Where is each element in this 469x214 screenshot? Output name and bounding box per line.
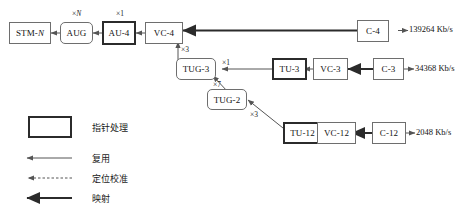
node-vc-3[interactable]: VC-3 <box>313 58 348 80</box>
rate-c-3: 34368 Kb/s <box>415 63 454 73</box>
node-aug[interactable]: AUG <box>60 22 93 44</box>
node-c-12[interactable]: C-12 <box>372 122 406 144</box>
node-au-4[interactable]: AU-4 <box>102 21 136 45</box>
multiplier-au-4: ×1 <box>116 9 124 18</box>
node-vc-4[interactable]: VC-4 <box>145 22 183 44</box>
legend-label-map: 映射 <box>92 192 110 205</box>
multiplier-aug: ×N <box>72 9 81 18</box>
diagram-canvas: STM-N AUG AU-4 VC-4 C-4 TUG-3 TU-3 VC-3 … <box>0 0 469 214</box>
node-tug-2[interactable]: TUG-2 <box>207 89 247 110</box>
legend-label-mux: 复用 <box>92 152 110 165</box>
multiplier-tu-12: ×3 <box>250 110 258 119</box>
node-label-stm-n: STM-N <box>16 28 44 38</box>
node-vc-12[interactable]: VC-12 <box>317 122 356 144</box>
node-c-4[interactable]: C-4 <box>357 20 389 42</box>
legend-label-pointer: 指针处理 <box>92 121 128 134</box>
node-tug-3[interactable]: TUG-3 <box>176 58 216 80</box>
node-tu-3[interactable]: TU-3 <box>272 58 307 80</box>
multiplier-tug-2: ×7 <box>213 80 221 89</box>
legend-label-align: 定位校准 <box>92 172 128 185</box>
multiplier-tu-3: ×1 <box>222 58 230 67</box>
multiplier-tug-3: ×3 <box>181 45 189 54</box>
legend-symbol-pointer-box <box>28 116 72 138</box>
rate-c-12: 2048 Kb/s <box>416 127 451 137</box>
node-c-3[interactable]: C-3 <box>373 58 404 80</box>
node-stm-n[interactable]: STM-N <box>9 22 51 44</box>
rate-c-4: 139264 Kb/s <box>409 24 453 34</box>
